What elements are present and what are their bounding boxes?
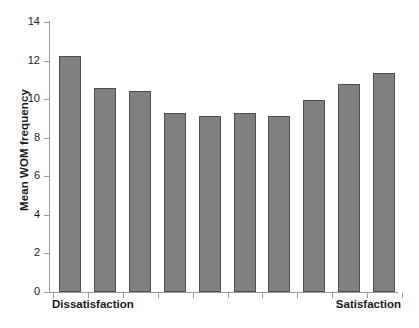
- y-axis-tick-label: 0: [10, 286, 40, 297]
- bar: [373, 73, 395, 292]
- bar: [338, 84, 360, 292]
- y-axis-tick-label: 10: [10, 93, 40, 104]
- bar: [303, 100, 325, 292]
- y-axis-tick-label: 14: [10, 16, 40, 27]
- y-axis-tick-label: 4: [10, 209, 40, 220]
- x-axis-line: [49, 292, 398, 293]
- x-axis-tick: [332, 293, 333, 298]
- x-axis-tick: [297, 293, 298, 298]
- bar: [59, 56, 81, 292]
- x-axis-tick: [193, 293, 194, 298]
- y-axis-tick-label: 8: [10, 132, 40, 143]
- bar: [234, 113, 256, 292]
- x-axis-tick: [158, 293, 159, 298]
- y-axis-tick-label: 12: [10, 55, 40, 66]
- bar: [94, 88, 116, 292]
- x-axis-tick: [228, 293, 229, 298]
- y-axis-tick: [44, 292, 49, 293]
- x-axis-tick: [402, 293, 403, 298]
- bar-chart: Mean WOM frequency 02468101214 Dissatisf…: [0, 0, 419, 328]
- bar: [164, 113, 186, 292]
- x-axis-label-right: Satisfaction: [336, 298, 401, 310]
- bar: [268, 116, 290, 292]
- plot-area: [49, 22, 398, 292]
- x-axis-tick: [262, 293, 263, 298]
- y-axis-tick-label: 6: [10, 170, 40, 181]
- x-axis-label-left: Dissatisfaction: [52, 298, 134, 310]
- bar: [129, 91, 151, 292]
- y-axis-tick-label: 2: [10, 247, 40, 258]
- bar: [199, 116, 221, 292]
